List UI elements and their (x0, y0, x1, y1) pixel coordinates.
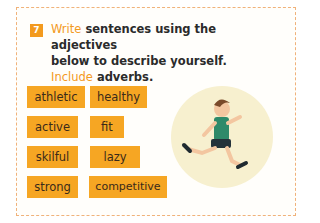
adjective-healthy: healthy (90, 86, 147, 108)
adjective-strong: strong (27, 176, 78, 198)
running-boy-icon (180, 95, 265, 180)
instruction-line2: below to describe yourself. (51, 54, 227, 68)
adjective-fit: fit (90, 116, 124, 138)
exercise-number: 7 (30, 24, 43, 37)
instruction-text: Write sentences using the adjectives bel… (51, 21, 281, 85)
adjective-lazy: lazy (90, 146, 140, 168)
instruction-verb-write: Write (51, 22, 81, 36)
instruction-verb-include: Include (51, 70, 93, 84)
adjective-competitive: competitive (89, 176, 167, 198)
instruction-line3: adverbs. (93, 70, 153, 84)
adjective-athletic: athletic (27, 86, 85, 108)
adjective-skilful: skilful (27, 146, 78, 168)
adjective-active: active (27, 116, 78, 138)
